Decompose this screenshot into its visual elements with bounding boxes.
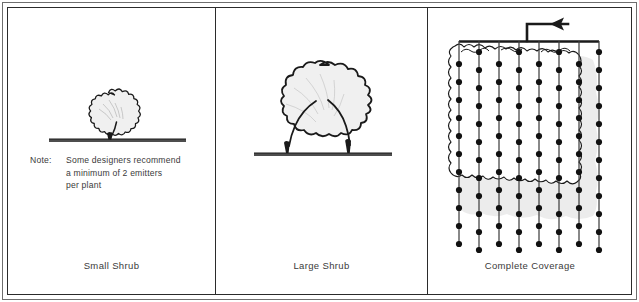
note-label: Note: <box>30 154 66 167</box>
note-text: Some designers recommend a minimum of 2 … <box>66 154 181 192</box>
supply-inlet <box>527 18 568 42</box>
figure-drip-emitter-placement: Note: Some designers recommend a minimum… <box>0 0 639 302</box>
designer-note: Note: Some designers recommend a minimum… <box>30 154 181 192</box>
large-shrub-illustration <box>216 8 427 294</box>
emitter-point-right <box>345 139 351 153</box>
panel-large-shrub: Large Shrub <box>216 8 427 294</box>
panel-complete-coverage: Complete Coverage <box>428 8 632 294</box>
ground-line <box>49 139 186 141</box>
ground-line <box>254 153 392 155</box>
caption-small-shrub: Small Shrub <box>8 260 215 271</box>
small-shrub-illustration <box>8 8 215 294</box>
panel-small-shrub: Note: Some designers recommend a minimum… <box>8 8 215 294</box>
caption-complete-coverage: Complete Coverage <box>428 260 632 271</box>
emitter-point <box>107 132 113 140</box>
complete-coverage-illustration <box>428 8 632 294</box>
emitter-point-left <box>284 141 290 153</box>
groundcover-area <box>449 44 599 219</box>
caption-large-shrub: Large Shrub <box>216 260 427 271</box>
